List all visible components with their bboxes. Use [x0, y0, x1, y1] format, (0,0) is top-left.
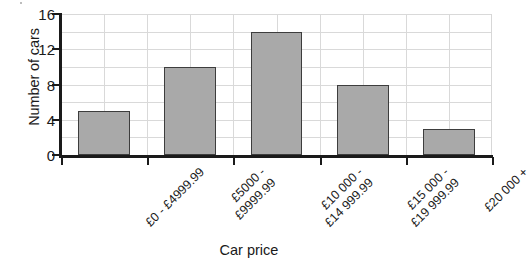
y-axis-tick-mark — [52, 154, 60, 156]
x-axis-tick-mark — [320, 157, 322, 165]
x-axis-tick-mark — [147, 157, 149, 165]
x-axis-tick-label: £15 000 - £19 999.99 — [397, 165, 462, 230]
plot-area — [61, 14, 492, 155]
x-axis-tick-mark — [492, 157, 494, 165]
bar — [251, 32, 303, 155]
x-axis-tick-label: £10 000 - £14 999.99 — [311, 165, 376, 230]
y-axis-tick-mark — [52, 84, 60, 86]
x-axis-line — [59, 155, 493, 158]
y-axis-tick-mark — [52, 48, 60, 50]
scan-artifact — [20, 2, 22, 4]
x-axis-tick-mark — [406, 157, 408, 165]
y-axis-tick-mark — [52, 13, 60, 15]
bar — [78, 111, 130, 155]
gridline-vertical — [147, 14, 148, 155]
x-axis-title: Car price — [0, 242, 498, 258]
x-axis-tick-mark — [233, 157, 235, 165]
bar — [164, 67, 216, 155]
gridline-vertical — [406, 14, 407, 155]
x-axis-tick-label: £20 000 + — [481, 165, 531, 215]
x-axis-tick-mark — [61, 157, 63, 165]
y-axis-tick-labels: 0481216 — [30, 0, 55, 270]
bar — [337, 85, 389, 156]
x-axis-tick-label: £5000 - £9999.99 — [222, 165, 279, 222]
y-axis-tick-mark — [52, 119, 60, 121]
gridline-vertical — [233, 14, 234, 155]
x-axis-tick-label: £0 - £4999.99 — [143, 165, 208, 230]
gridline-vertical — [320, 14, 321, 155]
bar — [423, 129, 475, 155]
